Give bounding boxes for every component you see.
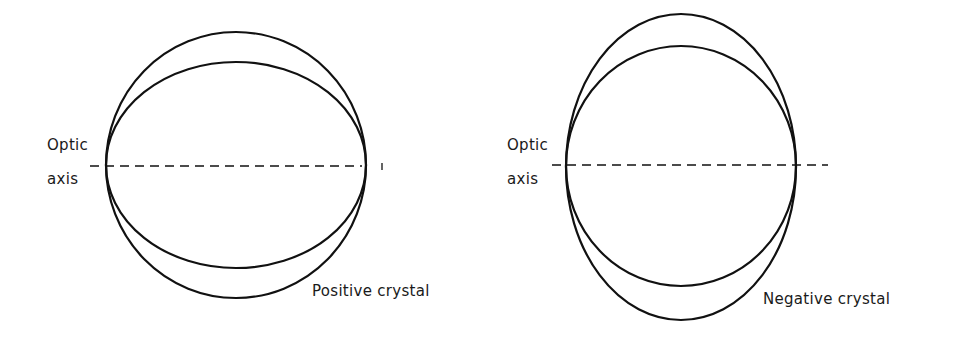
negative-inner-circle bbox=[566, 46, 796, 286]
positive-crystal-figure bbox=[90, 32, 382, 298]
positive-outer-circle bbox=[106, 32, 366, 298]
negative-crystal-figure bbox=[552, 14, 828, 320]
negative-optic-label: Optic bbox=[507, 138, 548, 153]
positive-optic-label: Optic bbox=[47, 138, 88, 153]
negative-axis-label: axis bbox=[507, 172, 538, 187]
negative-outer-ellipse bbox=[566, 14, 796, 320]
positive-crystal-caption: Positive crystal bbox=[312, 284, 430, 299]
negative-crystal-caption: Negative crystal bbox=[763, 292, 890, 307]
positive-axis-label: axis bbox=[47, 172, 78, 187]
positive-inner-ellipse bbox=[106, 62, 366, 268]
